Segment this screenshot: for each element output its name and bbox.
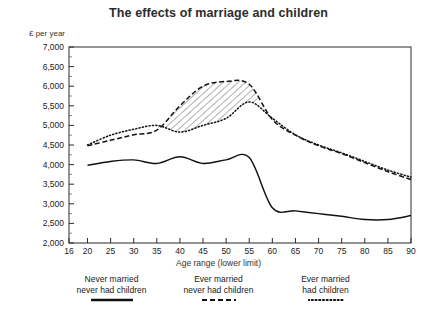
legend-label-line1: Never married <box>64 274 160 285</box>
data-series-layer <box>87 80 411 220</box>
legend-item: Never marriednever had children <box>64 274 160 303</box>
legend-item: Ever marriednever had children <box>171 274 267 303</box>
axis-ticks <box>69 47 411 243</box>
dashed-line-swatch <box>171 296 267 303</box>
legend-label-line1: Ever married <box>171 274 267 285</box>
series-line <box>87 102 411 177</box>
plot-area <box>0 0 437 320</box>
series-line <box>87 154 411 220</box>
legend-label-line1: Ever married <box>278 274 374 285</box>
legend-item: Ever marriedhad children <box>278 274 374 303</box>
x-axis-label: Age range (lower limit) <box>0 258 437 268</box>
legend-label-line2: never had children <box>64 285 160 296</box>
solid-line-swatch <box>64 296 160 303</box>
chart-legend: Never marriednever had childrenEver marr… <box>0 274 437 303</box>
legend-label-line2: had children <box>278 285 374 296</box>
dotted-line-swatch <box>278 296 374 303</box>
chart-container: The effects of marriage and children £ p… <box>0 0 437 320</box>
legend-label-line2: never had children <box>171 285 267 296</box>
axis-frame <box>69 47 411 243</box>
